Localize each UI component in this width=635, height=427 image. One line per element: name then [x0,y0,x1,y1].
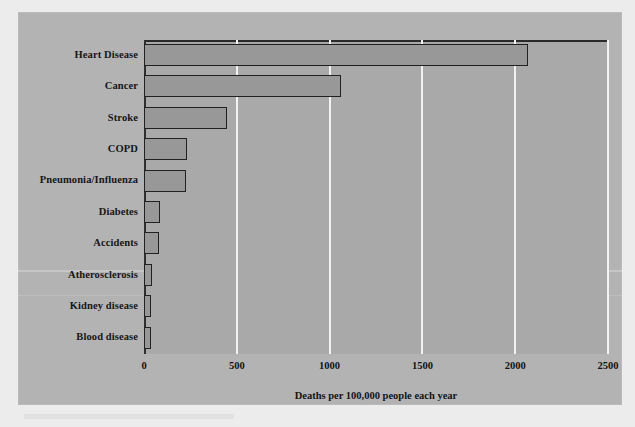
bar-copd[interactable] [144,138,187,160]
category-label-accidents: Accidents [0,237,138,248]
category-label-diabetes: Diabetes [0,206,138,217]
bar-row [144,71,608,102]
bar-row [144,134,608,165]
bar-row [144,40,608,71]
bar-row [144,228,608,259]
figure-panel: Heart DiseaseCancerStrokeCOPDPneumonia/I… [18,12,622,405]
category-label-copd: COPD [0,143,138,154]
category-label-atherosclerosis: Atherosclerosis [0,269,138,280]
x-tick-label-2500: 2500 [568,360,635,371]
x-tick-label-500: 500 [197,360,277,371]
category-label-column: Heart DiseaseCancerStrokeCOPDPneumonia/I… [0,40,138,354]
bar-atherosclerosis[interactable] [144,264,152,286]
x-tick-label-1000: 1000 [290,360,370,371]
bar-diabetes[interactable] [144,201,160,223]
x-tick-label-1500: 1500 [382,360,462,371]
category-label-stroke: Stroke [0,112,138,123]
bar-blood-disease[interactable] [144,327,151,349]
scanned-page: Heart DiseaseCancerStrokeCOPDPneumonia/I… [0,0,635,427]
bar-stroke[interactable] [144,107,227,129]
bar-row [144,260,608,291]
bar-row [144,103,608,134]
bar-row [144,197,608,228]
bar-row [144,291,608,322]
bar-row [144,166,608,197]
category-label-blood-disease: Blood disease [0,331,138,342]
x-tick-label-2000: 2000 [475,360,555,371]
bar-accidents[interactable] [144,232,159,254]
bar-kidney-disease[interactable] [144,295,151,317]
page-edge-artifact [24,414,234,419]
bar-chart-plot-area: Heart DiseaseCancerStrokeCOPDPneumonia/I… [144,40,608,354]
bar-cancer[interactable] [144,75,341,97]
category-label-cancer: Cancer [0,80,138,91]
x-axis-title: Deaths per 100,000 people each year [144,390,608,401]
bar-heart-disease[interactable] [144,44,528,66]
category-label-heart-disease: Heart Disease [0,49,138,60]
bar-row [144,323,608,354]
x-tick-label-0: 0 [104,360,184,371]
category-label-pneumonia-influenza: Pneumonia/Influenza [0,174,138,185]
bar-pneumonia-influenza[interactable] [144,170,186,192]
category-label-kidney-disease: Kidney disease [0,300,138,311]
